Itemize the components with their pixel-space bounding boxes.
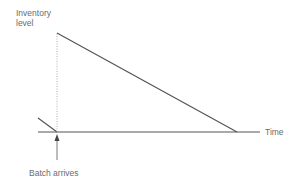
batch-arrival-arrow-icon xyxy=(55,134,60,160)
depletion-line xyxy=(57,33,237,132)
y-axis-label: Inventory level xyxy=(16,8,51,28)
y-axis-label-line2: level xyxy=(16,18,51,28)
prior-depletion-segment xyxy=(38,118,57,132)
y-axis-label-line1: Inventory xyxy=(16,8,51,18)
inventory-diagram xyxy=(0,0,308,187)
x-axis-label: Time xyxy=(265,127,284,137)
batch-arrives-label: Batch arrives xyxy=(29,168,79,178)
